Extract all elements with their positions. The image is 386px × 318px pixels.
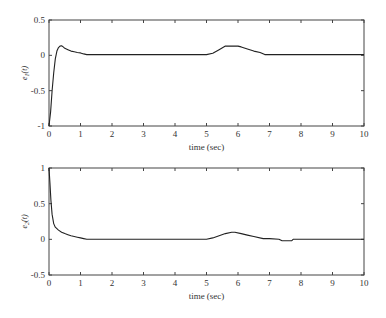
x-tick-label: 7: [267, 278, 272, 288]
x-tick-label: 2: [110, 278, 115, 288]
x-tick-label: 8: [299, 278, 304, 288]
y-tick-label: -0.5: [31, 270, 46, 280]
x-tick-label: 0: [47, 278, 52, 288]
plot-frame: [49, 20, 364, 126]
y-tick-label: 0: [41, 234, 46, 244]
x-tick-label: 9: [330, 129, 335, 139]
x-tick-label: 3: [141, 278, 146, 288]
y-tick-label: -1: [38, 121, 46, 131]
x-tick-label: 4: [173, 278, 178, 288]
y-tick-label: 0: [41, 50, 46, 60]
x-tick-label: 6: [236, 129, 241, 139]
plot-frame: [49, 168, 364, 275]
x-tick-label: 5: [204, 129, 209, 139]
y-tick-label: 1: [41, 163, 46, 173]
y-axis-label: e1(t): [20, 66, 30, 80]
series-line: [49, 168, 364, 241]
x-tick-label: 7: [267, 129, 272, 139]
x-tick-label: 8: [299, 129, 304, 139]
chart-figure: 012345678910-1-0.500.5time (sec)e1(t) 01…: [0, 0, 386, 318]
x-tick-label: 4: [173, 129, 178, 139]
x-tick-label: 10: [360, 129, 370, 139]
x-tick-label: 3: [141, 129, 146, 139]
x-tick-label: 2: [110, 129, 115, 139]
plot-e1: 012345678910-1-0.500.5time (sec)e1(t): [20, 15, 369, 152]
x-tick-label: 10: [360, 278, 370, 288]
series-line: [49, 46, 364, 126]
y-tick-label: -0.5: [31, 86, 46, 96]
y-tick-label: 0.5: [34, 15, 46, 25]
x-tick-label: 0: [47, 129, 52, 139]
x-tick-label: 5: [204, 278, 209, 288]
plot-e2: 012345678910-0.500.51time (sec)e2(t): [20, 163, 369, 301]
x-axis-label: time (sec): [189, 291, 225, 301]
x-tick-label: 6: [236, 278, 241, 288]
y-axis-label: e2(t): [20, 214, 30, 228]
x-tick-label: 1: [78, 278, 83, 288]
x-tick-label: 1: [78, 129, 83, 139]
x-tick-label: 9: [330, 278, 335, 288]
x-axis-label: time (sec): [189, 142, 225, 152]
y-tick-label: 0.5: [34, 199, 46, 209]
